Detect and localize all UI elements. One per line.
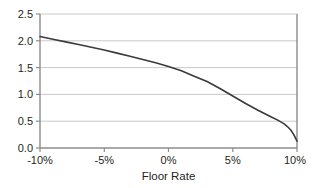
y-tick-label-1.5: 1.5 (18, 62, 33, 74)
x-tick-label-10: 10% (284, 154, 306, 166)
y-tick-label-0.0: 0.0 (18, 142, 33, 154)
y-tick-label-0.5: 0.5 (18, 115, 33, 127)
x-tick-label-5: 5% (225, 154, 241, 166)
chart-figure: 2.5 2.0 1.5 1.0 0.5 0.0 -10% -5% 0% 5% 1… (0, 0, 319, 188)
line-chart: 2.5 2.0 1.5 1.0 0.5 0.0 -10% -5% 0% 5% 1… (0, 0, 319, 188)
y-tick-label-2.0: 2.0 (18, 35, 33, 47)
x-tick-label-0: 0% (161, 154, 177, 166)
x-tick-label--5: -5% (95, 154, 115, 166)
y-tick-label-2.5: 2.5 (18, 8, 33, 20)
x-axis-title: Floor Rate (142, 170, 196, 182)
y-tick-label-1.0: 1.0 (18, 88, 33, 100)
x-tick-label--10: -10% (27, 154, 53, 166)
